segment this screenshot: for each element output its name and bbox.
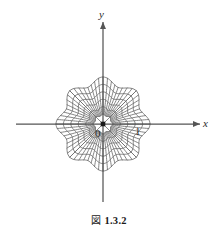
y-axis-label: y (99, 9, 104, 20)
caption-mark-label: 図 (91, 215, 101, 226)
y-axis-arrowhead (100, 22, 106, 29)
diagonal-ray (70, 91, 103, 124)
origin-marker (101, 122, 106, 127)
grid-line (107, 132, 119, 161)
grid-line (111, 109, 140, 121)
caption-number-label: 1.3.2 (104, 215, 127, 226)
coordinate-axes (16, 22, 200, 202)
grid-line (107, 87, 119, 116)
grid-line (88, 87, 100, 116)
grid-line (136, 91, 150, 124)
grid-line (103, 77, 136, 91)
diagonal-ray (103, 124, 136, 157)
grid-line (70, 77, 103, 91)
figure-container: y x 0 1 図 1.3.2 (0, 0, 218, 238)
grid-line (70, 157, 103, 171)
x-axis-arrowhead (193, 121, 200, 127)
figure-caption: 図 1.3.2 (0, 212, 218, 227)
unit-tick-label: 1 (135, 126, 141, 137)
grid-line (103, 157, 136, 171)
grid-line (56, 124, 70, 157)
x-axis-label: x (203, 118, 208, 129)
diagonal-ray (103, 91, 136, 124)
origin-label: 0 (95, 128, 101, 139)
grid-line (66, 128, 95, 140)
conformal-grid-figure (0, 0, 218, 218)
grid-line (66, 109, 95, 121)
grid-line (56, 91, 70, 124)
